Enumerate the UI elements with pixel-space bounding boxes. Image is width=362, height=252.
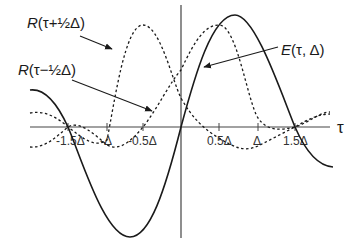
svg-text:E(τ, Δ): E(τ, Δ) xyxy=(281,41,324,58)
arrow-r-minus xyxy=(72,80,152,111)
tick-labels: -1.5Δ -Δ -0.5Δ 0.5Δ Δ 1.5Δ xyxy=(56,134,308,148)
tau-axis-label: τ xyxy=(337,118,344,137)
label-r-minus: R(τ−½Δ) xyxy=(18,61,152,111)
tick-label-0-5: 0.5Δ xyxy=(207,134,232,148)
svg-text:R(τ+½Δ): R(τ+½Δ) xyxy=(27,14,85,31)
label-r-plus-prefix: R xyxy=(27,14,38,31)
label-r-minus-prefix: R xyxy=(18,61,29,78)
label-e-arg: (τ, Δ) xyxy=(291,41,324,58)
tick-label-neg0-5: -0.5Δ xyxy=(128,134,157,148)
label-r-plus: R(τ+½Δ) xyxy=(27,14,112,49)
svg-text:R(τ−½Δ): R(τ−½Δ) xyxy=(18,61,76,78)
discriminator-diagram: τ -1.5Δ -Δ -0.5Δ 0.5Δ Δ 1.5Δ R(τ+½Δ) R(τ… xyxy=(0,0,362,252)
label-r-minus-arg: (τ−½Δ) xyxy=(29,61,76,78)
label-r-plus-arg: (τ+½Δ) xyxy=(38,14,85,31)
label-e: E(τ, Δ) xyxy=(204,41,324,67)
arrow-r-plus xyxy=(80,36,112,49)
